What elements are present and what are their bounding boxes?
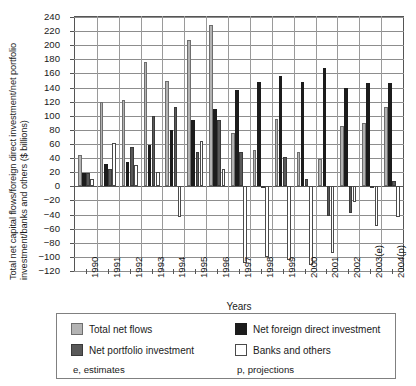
x-axis-tick-mark: [348, 269, 349, 274]
y-axis-tick-mark: [70, 116, 74, 117]
bar: [327, 186, 331, 216]
x-axis-tick-label: 1993: [156, 257, 166, 278]
y-axis-tick-label: −100: [20, 252, 60, 262]
y-axis-tick-mark: [70, 215, 74, 216]
bar-group: [294, 16, 316, 272]
bar: [261, 186, 265, 188]
y-axis-tick-label: −40: [20, 210, 60, 220]
y-axis-tick-label: −120: [20, 266, 60, 276]
y-axis-tick-mark: [70, 229, 74, 230]
bar: [170, 130, 174, 186]
y-axis-tick-mark: [70, 88, 74, 89]
bar: [305, 179, 309, 187]
x-axis-title: Years: [74, 301, 404, 312]
x-axis-tick-mark: [152, 269, 153, 274]
legend-item-banks-and-others: Banks and others: [235, 344, 331, 356]
bar: [165, 81, 169, 187]
bar: [217, 120, 221, 186]
bar: [323, 68, 327, 187]
y-axis-tick-mark: [70, 45, 74, 46]
bar: [301, 82, 305, 186]
bar: [82, 173, 86, 186]
bar: [287, 186, 291, 259]
bar: [349, 186, 353, 213]
y-axis-tick-mark: [70, 200, 74, 201]
x-axis-tick-label: 2000: [309, 257, 319, 278]
bar: [309, 186, 313, 264]
bar-group: [97, 16, 119, 272]
bar-group: [141, 16, 163, 272]
legend-swatch-net-portfolio-investment: [71, 344, 83, 356]
group-separator: [97, 16, 98, 272]
group-separator: [162, 16, 163, 272]
x-axis-tick-label: 1994: [177, 257, 187, 278]
bar: [104, 164, 108, 186]
x-axis-tick-label: 1991: [112, 257, 122, 278]
bar: [209, 25, 213, 187]
x-axis-tick-mark: [195, 269, 196, 274]
x-axis-tick-mark: [217, 269, 218, 274]
x-axis-tick-mark: [370, 269, 371, 274]
x-axis-tick-label: 1995: [199, 257, 209, 278]
legend-label-banks-and-others: Banks and others: [253, 345, 331, 356]
chart-legend: Total net flows Net foreign direct inves…: [56, 313, 396, 379]
bar: [174, 107, 178, 187]
bar: [392, 181, 396, 187]
y-axis-tick-mark: [70, 31, 74, 32]
bar-group: [119, 16, 141, 272]
group-separator: [316, 16, 317, 272]
group-separator: [381, 16, 382, 272]
x-axis-tick-mark: [130, 269, 131, 274]
x-axis-tick-mark: [261, 269, 262, 274]
legend-note-estimates: e, estimates: [73, 364, 125, 375]
y-axis-tick-mark: [70, 102, 74, 103]
y-axis-tick-mark: [70, 59, 74, 60]
legend-item-net-portfolio-investment: Net portfolio investment: [71, 344, 194, 356]
bar: [187, 40, 191, 187]
bar: [196, 152, 200, 186]
y-axis-tick-mark: [70, 144, 74, 145]
x-axis-tick-label: 1990: [90, 257, 100, 278]
bar: [375, 186, 379, 226]
x-axis-tick-label: 1996: [221, 257, 231, 278]
x-axis-tick-mark: [108, 269, 109, 274]
bar: [144, 62, 148, 186]
bar-group: [316, 16, 338, 272]
y-axis-tick-label: 40: [20, 153, 60, 163]
bar: [283, 157, 287, 187]
x-axis-tick-label: 2003(e): [374, 245, 384, 278]
y-axis-tick-label: 100: [20, 111, 60, 121]
y-axis-tick-label: 160: [20, 69, 60, 79]
legend-swatch-net-foreign-direct-investment: [235, 323, 247, 335]
x-axis-tick-mark: [392, 269, 393, 274]
x-axis-tick-label: 1998: [265, 257, 275, 278]
legend-note-projections: p, projections: [237, 364, 294, 375]
bar: [130, 147, 134, 187]
group-separator: [294, 16, 295, 272]
group-separator: [272, 16, 273, 272]
y-axis-tick-mark: [70, 186, 74, 187]
y-axis-tick-mark: [70, 257, 74, 258]
y-axis-tick-label: −60: [20, 224, 60, 234]
bar: [253, 150, 257, 187]
bar-group: [272, 16, 294, 272]
bar-group: [162, 16, 184, 272]
group-separator: [119, 16, 120, 272]
group-separator: [141, 16, 142, 272]
x-axis-tick-label: 2004(p): [396, 245, 406, 278]
bar: [78, 155, 82, 187]
chart-figure: Total net capital flows/foreign direct i…: [0, 0, 416, 386]
group-separator: [228, 16, 229, 272]
y-axis-tick-label: 20: [20, 167, 60, 177]
y-axis-tick-mark: [70, 17, 74, 18]
y-axis-tick-label: −80: [20, 238, 60, 248]
bar: [178, 186, 182, 216]
bar: [152, 116, 156, 186]
legend-item-net-foreign-direct-investment: Net foreign direct investment: [235, 323, 380, 335]
group-separator: [250, 16, 251, 272]
bar: [112, 143, 116, 187]
group-separator: [184, 16, 185, 272]
bar-group: [206, 16, 228, 272]
bar: [239, 152, 243, 186]
bar-group: [359, 16, 381, 272]
